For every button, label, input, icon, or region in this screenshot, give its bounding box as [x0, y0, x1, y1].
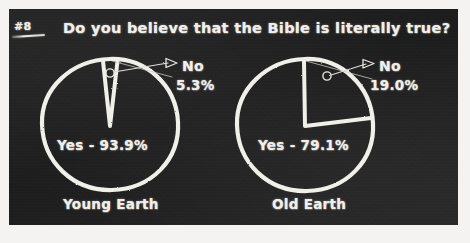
question-number: #8	[14, 20, 31, 33]
page-title: Do you believe that the Bible is literal…	[63, 20, 450, 36]
pie-label-yes-young-earth: Yes - 93.9%	[57, 137, 148, 153]
pie-label-yes-old-earth: Yes - 79.1%	[258, 137, 349, 153]
chalkboard-slide: #8 Do you believe that the Bible is lite…	[0, 0, 470, 243]
chart-caption-young-earth: Young Earth	[63, 196, 159, 212]
pie-label-no-young-earth: No	[182, 58, 204, 74]
pie-value-no-young-earth: 5.3%	[176, 77, 215, 93]
chart-caption-old-earth: Old Earth	[272, 196, 346, 212]
chalk-texture-overlay	[9, 9, 458, 225]
chalkboard-panel	[9, 9, 458, 225]
pie-label-no-old-earth: No	[379, 58, 401, 74]
pie-value-no-old-earth: 19.0%	[370, 77, 418, 93]
